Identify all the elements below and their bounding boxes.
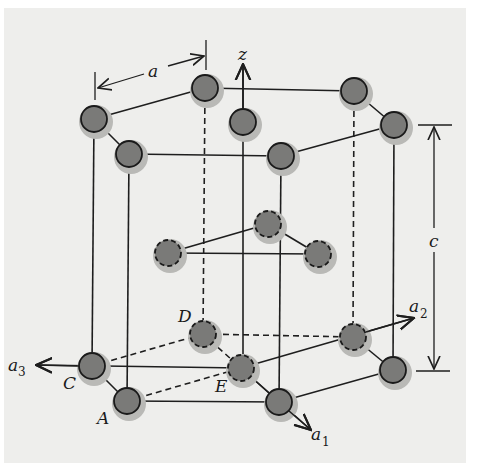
atom-bottom-right-back [340,324,366,350]
label-c: c [429,231,439,251]
atom-mid-left [155,240,181,266]
atom-bottom-E [228,355,254,381]
atom-bottom-D [190,321,216,347]
hcp-unit-cell-diagram: a z c a 3 a 2 a 1 C A D E [0,0,480,469]
atom-top-right-front [381,112,407,138]
atom-top-left-front [116,141,142,167]
atom-bottom-C [79,353,105,379]
atom-top-front-mid [268,143,294,169]
atom-bottom-right-front [380,357,406,383]
label-a1-subscript: 1 [322,435,330,449]
atom-mid-top [255,211,281,237]
label-a3-subscript: 3 [18,365,26,379]
label-a2-subscript: 2 [420,307,428,321]
paper-background [4,8,466,463]
label-a: a [148,61,158,81]
label-C: C [63,373,76,393]
label-a1: a [311,424,321,444]
atom-top-back-mid [192,75,218,101]
atom-bottom-A [114,388,140,414]
atom-bottom-front-mid [266,389,292,415]
atom-top-center [230,109,256,135]
atom-top-left-back [81,106,107,132]
atom-top-right-back [341,78,367,104]
label-z: z [237,44,248,64]
label-a2: a [409,296,419,316]
atom-mid-right [305,241,331,267]
label-A: A [95,408,109,428]
label-E: E [214,376,228,396]
label-D: D [177,306,192,326]
label-a3: a [8,355,18,375]
